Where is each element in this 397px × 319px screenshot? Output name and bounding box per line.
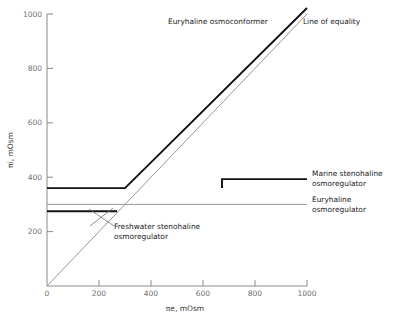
annotation-euryhaline-osmoregulator-line2: osmoregulator	[312, 205, 367, 214]
y-tick-label-200: 200	[28, 227, 43, 236]
series-marine-stenohaline-osmoregulator	[222, 179, 307, 188]
series-group	[47, 8, 307, 286]
y-tick-marks	[47, 14, 53, 232]
annotation-marine-stenohaline-line2: osmoregulator	[312, 179, 367, 188]
y-tick-label-400: 400	[28, 173, 43, 182]
x-tick-labels: 0 200 400 600 800 1000	[45, 289, 317, 298]
osmoregulation-chart-figure: 1000 800 600 400 200 0 200 400 600 800 1…	[0, 0, 397, 319]
y-tick-labels: 1000 800 600 400 200	[23, 10, 42, 237]
axes-group: 1000 800 600 400 200 0 200 400 600 800 1…	[6, 10, 317, 313]
x-tick-label-200: 200	[92, 289, 107, 298]
series-line-of-equality	[47, 14, 307, 286]
x-tick-label-0: 0	[45, 289, 50, 298]
leader-lines-group	[89, 179, 307, 226]
y-tick-label-600: 600	[28, 118, 43, 127]
x-tick-label-600: 600	[196, 289, 211, 298]
annotation-freshwater-stenohaline-line1: Freshwater stenohaline	[114, 222, 201, 231]
x-axis-title: πe, mOsm	[166, 304, 204, 313]
y-axis-title: πi, mOsm	[6, 132, 15, 168]
y-tick-label-1000: 1000	[23, 10, 42, 19]
series-euryhaline-osmoconformer	[47, 8, 307, 188]
x-tick-label-1000: 1000	[297, 289, 316, 298]
annotation-euryhaline-osmoregulator-line1: Euryhaline	[312, 195, 352, 204]
x-tick-label-400: 400	[144, 289, 159, 298]
annotations-group: Euryhaline osmoconformer Line of equalit…	[114, 17, 383, 241]
annotation-line-of-equality: Line of equality	[303, 17, 361, 26]
x-tick-marks	[99, 280, 307, 286]
annotation-marine-stenohaline-line1: Marine stenohaline	[312, 169, 383, 178]
annotation-euryhaline-osmoconformer: Euryhaline osmoconformer	[168, 17, 269, 26]
x-tick-label-800: 800	[248, 289, 263, 298]
y-tick-label-800: 800	[28, 64, 43, 73]
chart-canvas: 1000 800 600 400 200 0 200 400 600 800 1…	[0, 0, 397, 319]
annotation-freshwater-stenohaline-line2: osmoregulator	[114, 232, 169, 241]
